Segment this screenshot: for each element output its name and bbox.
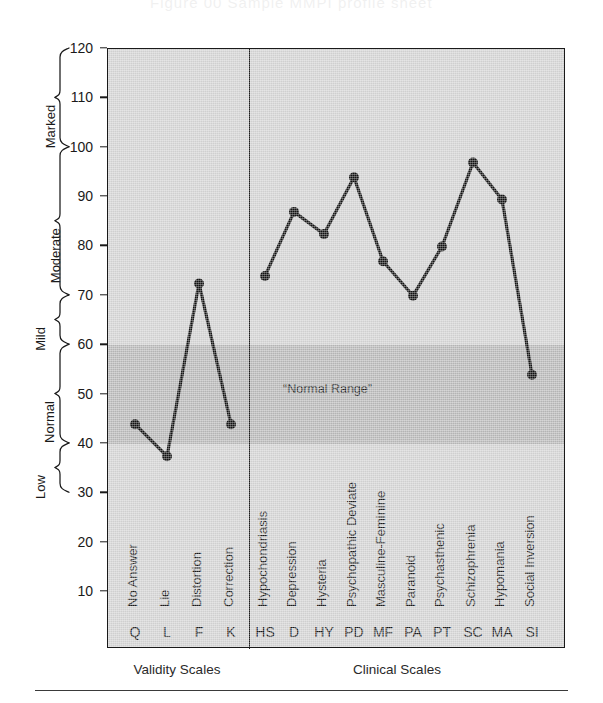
scale-abbr-label: PA [404, 624, 422, 640]
severity-brace-label-low: Low [33, 475, 48, 499]
y-tick-label: 50 [59, 386, 93, 402]
scale-abbr-label: HS [255, 624, 274, 640]
y-tick-label: 80 [59, 237, 93, 253]
y-tick-mark [100, 442, 107, 443]
y-tick-mark [100, 195, 107, 196]
scale-abbr-label: PT [433, 624, 451, 640]
data-point-marker [260, 271, 270, 281]
scale-name-label: Hypomania [492, 541, 507, 607]
y-tick-mark [100, 590, 107, 591]
y-tick-label: 110 [59, 89, 93, 105]
y-tick-mark [100, 47, 107, 48]
scale-name-label: Social Inversion [522, 515, 537, 607]
y-tick-mark [100, 541, 107, 542]
scale-abbr-label: D [289, 624, 299, 640]
y-tick-mark [100, 97, 107, 98]
scale-name-label: No Answer [125, 544, 140, 607]
severity-brace-label-mild: Mild [33, 327, 48, 351]
y-tick-mark [100, 343, 107, 344]
data-point-marker [162, 451, 172, 461]
profile-polyline [265, 163, 532, 375]
plot-area: “Normal Range” No AnswerQLieLDistortionF… [107, 48, 565, 648]
y-tick-mark [100, 294, 107, 295]
normal-range-label: “Normal Range” [283, 382, 372, 396]
data-point-marker [194, 278, 204, 288]
scale-name-label: Schizophrenia [463, 525, 478, 607]
scale-abbr-label: F [195, 624, 204, 640]
scale-abbr-label: PD [344, 624, 363, 640]
data-point-marker [497, 195, 507, 205]
y-tick-label: 40 [59, 435, 93, 451]
data-point-marker [319, 229, 329, 239]
scale-abbr-label: SC [463, 624, 482, 640]
y-tick-label: 10 [59, 583, 93, 599]
scale-abbr-label: SI [525, 624, 538, 640]
severity-brace-label-marked: Marked [43, 105, 58, 148]
validity-clinical-divider [249, 49, 250, 649]
scale-abbr-label: L [163, 624, 171, 640]
scale-name-label: Psychasthenic [432, 523, 447, 607]
y-tick-mark [100, 492, 107, 493]
data-point-marker [378, 256, 388, 266]
scale-name-label: Psychopathic Deviate [344, 482, 359, 607]
scale-abbr-label: HY [314, 624, 333, 640]
severity-brace-label-moderate: Moderate [48, 228, 63, 283]
scale-name-label: Hypochondriasis [255, 511, 270, 607]
scale-name-label: Lie [157, 590, 172, 607]
data-point-marker [408, 291, 418, 301]
bottom-rule [35, 690, 568, 691]
scale-name-label: Depression [284, 541, 299, 607]
y-tick-label: 60 [59, 336, 93, 352]
y-tick-mark [100, 245, 107, 246]
scale-name-label: Masculine-Feminine [373, 491, 388, 607]
scale-abbr-label: K [226, 624, 235, 640]
group-caption: Clinical Scales [353, 662, 441, 677]
y-tick-label: 100 [59, 139, 93, 155]
scale-name-label: Paranoid [403, 555, 418, 607]
data-point-marker [437, 241, 447, 251]
scale-name-label: Correction [221, 547, 236, 607]
scale-abbr-label: MF [373, 624, 393, 640]
y-tick-label: 90 [59, 188, 93, 204]
y-tick-mark [100, 146, 107, 147]
y-tick-label: 120 [59, 40, 93, 56]
data-point-marker [289, 207, 299, 217]
mmpi-profile-figure: Figure 00 Sample MMPI profile sheet 1020… [0, 0, 603, 703]
data-point-marker [349, 172, 359, 182]
y-tick-label: 20 [59, 534, 93, 550]
y-tick-label: 30 [59, 484, 93, 500]
severity-brace-label-normal: Normal [42, 401, 57, 443]
y-tick-mark [100, 393, 107, 394]
data-point-marker [468, 158, 478, 168]
scale-abbr-label: MA [492, 624, 513, 640]
scale-abbr-label: Q [130, 624, 141, 640]
scale-name-label: Hysteria [314, 559, 329, 607]
scale-name-label: Distortion [189, 552, 204, 607]
group-caption: Validity Scales [134, 662, 221, 677]
ghost-running-head: Figure 00 Sample MMPI profile sheet [150, 0, 570, 14]
y-tick-label: 70 [59, 287, 93, 303]
